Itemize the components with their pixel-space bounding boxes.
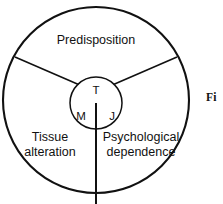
spoke-upper-right xyxy=(114,57,178,85)
spoke-upper-left xyxy=(15,57,79,85)
sector-label-psychological-dependence-line1: Psychological xyxy=(103,130,179,144)
figure-container: Predisposition Tissue alteration Psychol… xyxy=(0,0,223,204)
sector-label-tissue-alteration-line1: Tissue xyxy=(32,130,68,144)
figure-caption-fragment: Fi xyxy=(206,91,217,103)
node-label-m: M xyxy=(76,110,86,122)
node-label-t: T xyxy=(92,84,99,96)
sector-label-predisposition: Predisposition xyxy=(57,33,136,47)
sector-label-tissue-alteration-line2: alteration xyxy=(24,145,75,159)
node-label-j: J xyxy=(109,110,115,122)
sector-label-psychological-dependence-line2: dependence xyxy=(107,145,176,159)
three-sector-circle-diagram: Predisposition Tissue alteration Psychol… xyxy=(0,0,223,204)
